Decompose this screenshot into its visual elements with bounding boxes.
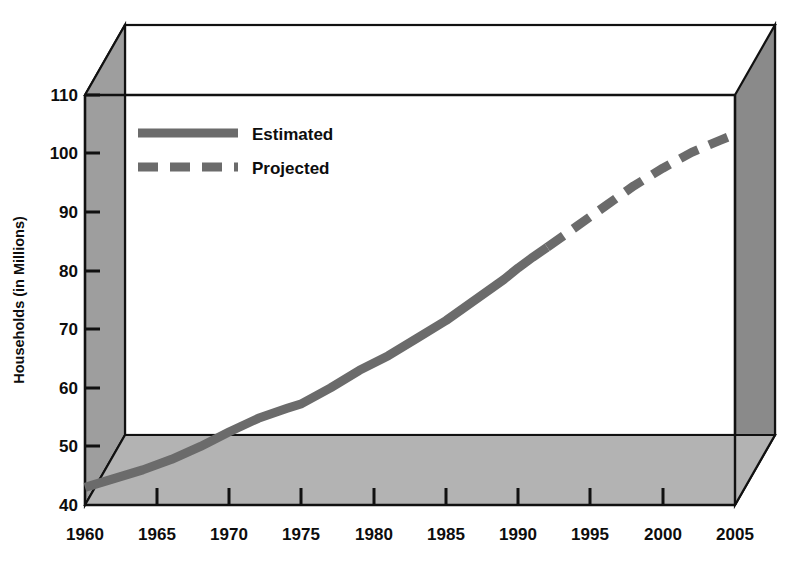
y-tick-label-60: 60 (59, 379, 78, 398)
y-tick-label-90: 90 (59, 203, 78, 222)
box-floor-face (85, 435, 775, 505)
x-tick-label-1960: 1960 (66, 525, 104, 544)
chart-3d-box (85, 25, 775, 505)
legend-label-projected: Projected (252, 159, 329, 178)
y-tick-label-40: 40 (59, 496, 78, 515)
y-tick-label-70: 70 (59, 320, 78, 339)
y-tick-label-80: 80 (59, 262, 78, 281)
y-tick-label-100: 100 (50, 144, 78, 163)
x-tick-label-1995: 1995 (571, 525, 609, 544)
y-axis-tick-labels: 110 100 90 80 70 60 50 40 (50, 86, 78, 515)
x-tick-label-2005: 2005 (716, 525, 754, 544)
line-chart: 110 100 90 80 70 60 50 40 Households (in… (0, 0, 792, 561)
box-right-face (735, 25, 775, 505)
chart-container: 110 100 90 80 70 60 50 40 Households (in… (0, 0, 792, 561)
plot-back-wall (125, 25, 775, 435)
x-axis-tick-labels: 1960 1965 1970 1975 1980 1985 1990 1995 … (66, 525, 754, 544)
box-left-face (85, 25, 125, 505)
x-tick-label-1985: 1985 (427, 525, 465, 544)
x-tick-label-1980: 1980 (355, 525, 393, 544)
x-tick-label-1970: 1970 (210, 525, 248, 544)
x-tick-label-2000: 2000 (644, 525, 682, 544)
x-tick-label-1990: 1990 (499, 525, 537, 544)
legend-label-estimated: Estimated (252, 125, 333, 144)
y-tick-label-110: 110 (51, 86, 78, 105)
y-axis-title: Households (in Millions) (11, 216, 27, 384)
x-tick-label-1975: 1975 (282, 525, 320, 544)
x-tick-label-1965: 1965 (138, 525, 176, 544)
y-tick-label-50: 50 (59, 437, 78, 456)
